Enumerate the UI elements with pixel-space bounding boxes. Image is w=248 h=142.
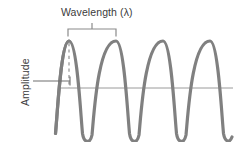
wavelength-amplitude-diagram: Wavelength (λ) Amplitude — [0, 0, 248, 142]
sine-wave-curve — [56, 41, 233, 141]
wavelength-label: Wavelength (λ) — [61, 6, 133, 18]
amplitude-label: Amplitude — [19, 58, 31, 106]
waveform-svg — [0, 0, 248, 142]
sine-wave-leading-edge — [56, 41, 70, 134]
wavelength-bracket — [68, 29, 116, 36]
